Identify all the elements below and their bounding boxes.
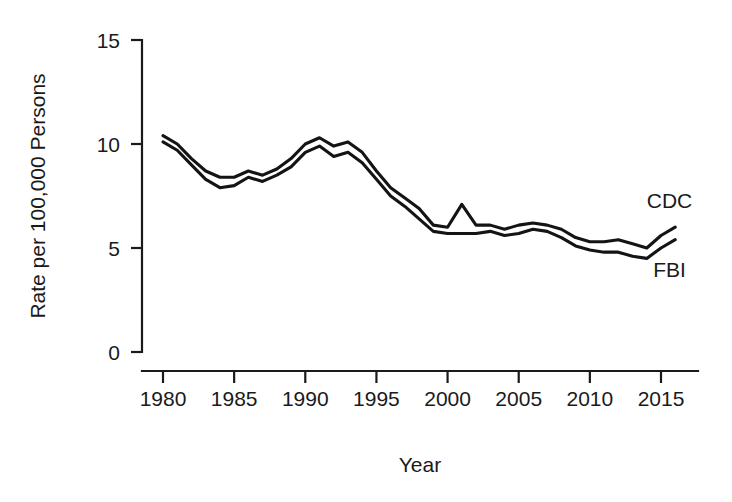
y-axis-ticks xyxy=(131,40,142,352)
chart-canvas: 05101519801985199019952000200520102015 C… xyxy=(0,0,732,502)
tick-labels: 05101519801985199019952000200520102015 xyxy=(97,29,685,411)
x-tick-label-1980: 1980 xyxy=(140,387,187,410)
y-tick-label-15: 15 xyxy=(97,29,120,52)
series-line-cdc xyxy=(163,136,675,248)
x-tick-label-1990: 1990 xyxy=(282,387,329,410)
series-annotations: CDCFBI xyxy=(647,189,693,281)
series-label-cdc: CDC xyxy=(647,189,693,212)
y-tick-label-5: 5 xyxy=(108,237,120,260)
y-tick-label-0: 0 xyxy=(108,341,120,364)
x-tick-label-1985: 1985 xyxy=(211,387,258,410)
line-chart-figure: 05101519801985199019952000200520102015 C… xyxy=(0,0,732,502)
x-axis-ticks xyxy=(163,371,661,383)
series-label-fbi: FBI xyxy=(653,258,686,281)
x-tick-label-2015: 2015 xyxy=(638,387,685,410)
x-tick-label-2005: 2005 xyxy=(495,387,542,410)
y-tick-label-10: 10 xyxy=(97,133,120,156)
x-tick-label-2000: 2000 xyxy=(424,387,471,410)
y-axis-title: Rate per 100,000 Persons xyxy=(26,73,49,318)
axes xyxy=(131,40,698,383)
data-series-group xyxy=(163,136,675,259)
x-tick-label-2010: 2010 xyxy=(566,387,613,410)
x-axis-title: Year xyxy=(399,453,441,476)
x-tick-label-1995: 1995 xyxy=(353,387,400,410)
